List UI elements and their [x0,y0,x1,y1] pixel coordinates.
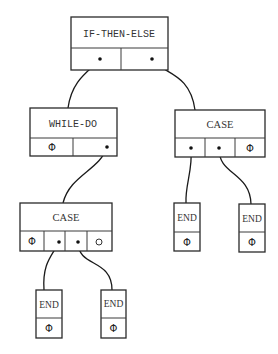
null-icon: Φ [248,237,256,248]
tree-diagram: IF-THEN-ELSE WHILE-DO Φ CASE Φ CASE Φ [0,0,278,354]
null-icon: Φ [183,237,191,248]
node-label: IF-THEN-ELSE [83,29,155,40]
pointer-dot-icon [150,57,154,61]
node-if-then-else: IF-THEN-ELSE [71,17,168,70]
pointer-dot-icon [105,145,109,149]
node-end-right-1: END Φ [174,203,200,251]
null-icon: Φ [246,143,254,154]
node-label: END [177,213,197,223]
null-icon: Φ [45,323,53,334]
pointer-dot-icon [217,146,221,150]
pointer-dot-icon [189,146,193,150]
pointer-dot-icon [76,240,80,244]
pointer-dot-icon [98,57,102,61]
node-label: CASE [53,212,80,223]
node-case-left: CASE Φ [20,203,112,251]
null-icon: Φ [48,142,56,153]
node-label: WHILE-DO [49,119,97,130]
node-label: END [104,299,124,309]
node-label: END [242,214,262,224]
node-case-right: CASE Φ [175,110,265,157]
node-label: END [39,300,59,310]
node-while-do: WHILE-DO Φ [30,108,117,156]
node-end-right-2: END Φ [239,204,265,252]
node-label: CASE [207,119,234,130]
pointer-dot-icon [57,240,61,244]
node-end-bottom-2: END Φ [101,290,126,338]
edges [44,59,251,290]
null-icon: Φ [110,323,118,334]
null-icon: Φ [28,236,36,247]
node-end-bottom-1: END Φ [36,290,62,338]
